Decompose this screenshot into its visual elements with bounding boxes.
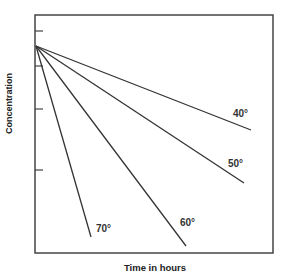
chart-canvas bbox=[0, 0, 288, 278]
plot-frame bbox=[35, 15, 273, 253]
series-label-60: 60° bbox=[180, 217, 195, 228]
series-label-40: 40° bbox=[233, 108, 248, 119]
series-label-70: 70° bbox=[96, 223, 111, 234]
x-axis-label: Time in hours bbox=[0, 262, 288, 273]
y-axis-label: Concentration bbox=[4, 73, 14, 134]
series-line-70 bbox=[36, 46, 91, 237]
series-label-50: 50° bbox=[228, 158, 243, 169]
